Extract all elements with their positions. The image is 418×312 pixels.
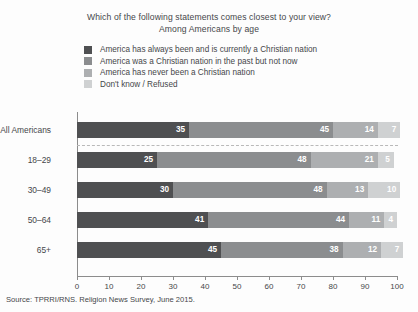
bar-segment-value: 13 (355, 186, 364, 194)
bar-segment[interactable]: 21 (311, 152, 378, 168)
bar-segment[interactable]: 38 (221, 242, 343, 258)
bar-segment[interactable]: 4 (384, 212, 397, 228)
x-axis-tick-label: 20 (137, 282, 146, 291)
legend-item[interactable]: America has never been a Christian natio… (84, 67, 317, 79)
x-axis-tick-label: 40 (201, 282, 210, 291)
bar-segment-value: 30 (160, 186, 169, 194)
bar-segment[interactable]: 7 (381, 242, 403, 258)
bar-segment[interactable]: 25 (77, 152, 157, 168)
bar-segment-value: 48 (313, 186, 322, 194)
x-axis-tick (141, 276, 142, 280)
x-axis-tick-label: 50 (233, 282, 242, 291)
plot-area: 0102030405060708090100All Americans35451… (77, 112, 397, 276)
legend-swatch-icon (84, 46, 92, 54)
x-axis-tick-label: 100 (390, 282, 403, 291)
bar-segment[interactable]: 45 (189, 122, 333, 138)
x-axis-tick-label: 70 (297, 282, 306, 291)
bar-segment-value: 45 (208, 246, 217, 254)
bar-row[interactable]: 3545147 (77, 122, 397, 138)
chart-legend: America has always been and is currently… (84, 44, 317, 90)
bar-segment-value: 7 (392, 126, 397, 134)
bar-segment-value: 21 (365, 156, 374, 164)
row-divider (77, 145, 398, 146)
bar-segment[interactable]: 12 (343, 242, 381, 258)
x-axis-tick (397, 276, 398, 280)
bar-segment-value: 48 (297, 156, 306, 164)
bar-segment[interactable]: 14 (333, 122, 378, 138)
source-note: Source: TPRRI/RNS. Religion News Survey,… (6, 295, 195, 304)
bar-segment-value: 4 (388, 216, 393, 224)
legend-item[interactable]: Don't know / Refused (84, 79, 317, 91)
bar-segment[interactable]: 5 (378, 152, 394, 168)
bar-segment-value: 35 (176, 126, 185, 134)
bar-segment-value: 41 (195, 216, 204, 224)
x-axis-tick (365, 276, 366, 280)
bar-segment-value: 5 (385, 156, 390, 164)
bar-segment-value: 11 (372, 216, 381, 224)
bar-segment[interactable]: 41 (77, 212, 208, 228)
bar-segment-value: 14 (365, 126, 374, 134)
chart-title: Which of the following statements comes … (0, 11, 418, 23)
bar-segment-value: 38 (329, 246, 338, 254)
bar-segment-value: 25 (144, 156, 153, 164)
x-axis-tick (301, 276, 302, 280)
chart-container: Which of the following statements comes … (0, 0, 418, 312)
legend-item-label: America has always been and is currently… (100, 44, 317, 56)
x-axis-tick-label: 90 (361, 282, 370, 291)
bar-segment[interactable]: 45 (77, 242, 221, 258)
bar-row[interactable]: 4144114 (77, 212, 397, 228)
x-axis-tick (109, 276, 110, 280)
bar-segment-value: 44 (336, 216, 345, 224)
x-axis-tick-label: 60 (265, 282, 274, 291)
bar-segment-value: 12 (368, 246, 377, 254)
legend-swatch-icon (84, 69, 92, 77)
bar-row[interactable]: 4538127 (77, 242, 397, 258)
x-axis-tick (77, 276, 78, 280)
bar-segment[interactable]: 44 (208, 212, 349, 228)
bar-segment[interactable]: 48 (173, 182, 327, 198)
chart-title-block: Which of the following statements comes … (0, 11, 418, 35)
chart-subtitle: Among Americans by age (0, 23, 418, 35)
x-axis-tick (237, 276, 238, 280)
bar-segment-value: 7 (395, 246, 400, 254)
category-label: 18–29 (28, 152, 51, 168)
x-axis-tick-label: 10 (105, 282, 114, 291)
legend-item[interactable]: America was a Christian nation in the pa… (84, 56, 317, 68)
x-axis-tick (269, 276, 270, 280)
bar-segment[interactable]: 35 (77, 122, 189, 138)
bar-row[interactable]: 2548215 (77, 152, 397, 168)
bar-segment-value: 10 (387, 186, 396, 194)
category-label: 50–64 (28, 212, 51, 228)
bar-segment[interactable]: 11 (349, 212, 384, 228)
bar-row[interactable]: 30481310 (77, 182, 397, 198)
bar-segment[interactable]: 7 (378, 122, 400, 138)
x-axis-tick (205, 276, 206, 280)
legend-swatch-icon (84, 80, 92, 88)
x-axis-tick-label: 80 (329, 282, 338, 291)
bar-segment[interactable]: 13 (327, 182, 369, 198)
bar-segment[interactable]: 48 (157, 152, 311, 168)
x-axis-tick-label: 30 (169, 282, 178, 291)
legend-swatch-icon (84, 57, 92, 65)
legend-item-label: America was a Christian nation in the pa… (100, 56, 298, 68)
bar-segment[interactable]: 10 (368, 182, 400, 198)
legend-item-label: Don't know / Refused (100, 79, 178, 91)
x-axis-tick (173, 276, 174, 280)
x-axis-tick-label: 0 (75, 282, 79, 291)
category-label: 65+ (37, 242, 51, 258)
bar-segment[interactable]: 30 (77, 182, 173, 198)
x-axis-tick (333, 276, 334, 280)
legend-item[interactable]: America has always been and is currently… (84, 44, 317, 56)
category-label: All Americans (0, 122, 51, 138)
category-label: 30–49 (28, 182, 51, 198)
legend-item-label: America has never been a Christian natio… (100, 67, 255, 79)
bar-segment-value: 45 (320, 126, 329, 134)
